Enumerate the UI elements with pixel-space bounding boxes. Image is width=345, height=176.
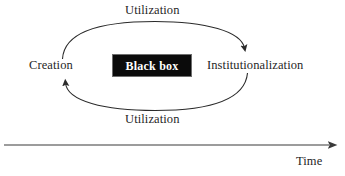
creation-label: Creation bbox=[29, 59, 73, 72]
diagram-canvas bbox=[0, 0, 345, 176]
cycle-diagram-figure: Utilization Creation Institutionalizatio… bbox=[0, 0, 345, 176]
time-axis-label: Time bbox=[296, 155, 322, 168]
black-box-label: Black box bbox=[126, 60, 179, 72]
institutionalization-label: Institutionalization bbox=[207, 59, 303, 72]
utilization-label-top: Utilization bbox=[125, 4, 180, 17]
utilization-label-bottom: Utilization bbox=[125, 113, 180, 126]
utilization-arrow-bottom bbox=[66, 73, 248, 111]
black-box-node: Black box bbox=[112, 54, 192, 77]
